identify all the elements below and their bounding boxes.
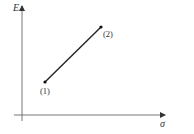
diagram-canvas: E σ (1) (2): [0, 0, 194, 134]
point-1-label: (1): [40, 86, 50, 96]
y-axis-label: E: [12, 2, 19, 13]
process-line: [45, 27, 101, 82]
point-2-label: (2): [103, 29, 113, 39]
point-1-marker: [43, 80, 46, 83]
x-axis-label: σ: [160, 118, 166, 129]
